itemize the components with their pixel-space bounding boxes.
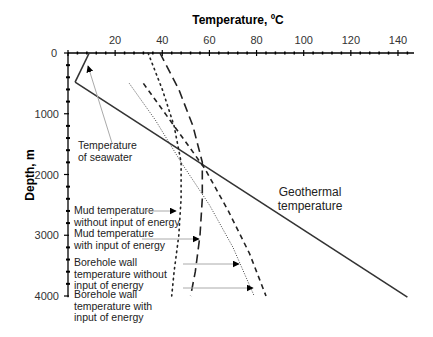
- annotation-text: Borehole wall: [74, 256, 137, 268]
- x-tick-label: 80: [250, 34, 262, 46]
- y-tick-label: 1000: [35, 108, 59, 120]
- x-tick-label: 140: [389, 34, 407, 46]
- x-tick-label: 40: [156, 34, 168, 46]
- annotation-4: Borehole walltemperature withoutinput of…: [74, 256, 239, 291]
- annotation-text: input of energy: [74, 311, 144, 323]
- y-tick-label: 2000: [35, 169, 59, 181]
- x-tick-label: 120: [342, 34, 360, 46]
- y-tick-label: 0: [51, 47, 57, 59]
- y-tick-label: 4000: [35, 290, 59, 302]
- temperature-depth-chart: Temperature, ºC 20406080100120140 010002…: [0, 0, 433, 337]
- annotation-text: Borehole wall: [74, 288, 137, 300]
- annotation-text: Temperature: [78, 139, 137, 151]
- x-tick-label: 100: [295, 34, 313, 46]
- y-axis-title: Depth, m: [23, 149, 37, 200]
- annotation-text: temperature without: [74, 268, 167, 280]
- annotation-text: with input of energy: [73, 239, 166, 251]
- annotation-text: Mud temperature: [74, 227, 154, 239]
- y-tick-label: 3000: [35, 229, 59, 241]
- annotation-group: Temperatureof seawaterGeothermaltemperat…: [73, 66, 343, 323]
- annotation-text: temperature: [278, 199, 343, 213]
- annotation-2: Mud temperaturewithout input of energy: [73, 204, 180, 228]
- series-line-0: [75, 53, 89, 82]
- x-axis: 20406080100120140: [68, 34, 414, 56]
- y-axis: 01000200030004000: [35, 47, 70, 302]
- annotation-text: Mud temperature: [74, 204, 154, 216]
- series-line-2: [148, 53, 181, 296]
- annotation-text: Geothermal: [279, 185, 342, 199]
- annotation-5: Borehole walltemperature withinput of en…: [74, 288, 253, 323]
- annotation-text: temperature with: [74, 300, 152, 312]
- x-tick-label: 60: [203, 34, 215, 46]
- x-tick-label: 20: [109, 34, 121, 46]
- annotation-1: Geothermaltemperature: [278, 185, 343, 213]
- annotation-text: of seawater: [78, 151, 133, 163]
- annotation-text: without input of energy: [73, 216, 180, 228]
- annotation-3: Mud temperaturewith input of energy: [73, 227, 199, 251]
- x-axis-title: Temperature, ºC: [192, 13, 284, 27]
- annotation-0: Temperatureof seawater: [78, 66, 137, 163]
